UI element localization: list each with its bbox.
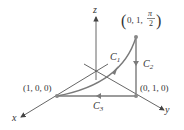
point-top-frac-den: 2: [149, 19, 153, 28]
point-top-close-paren: ): [156, 12, 161, 30]
point-left-label: (1, 0, 0): [23, 83, 52, 93]
z-axis-label: z: [92, 4, 97, 15]
point-right-label: (0, 1, 0): [140, 83, 169, 93]
c3-arrow-icon: [96, 93, 101, 99]
c2-label: C2: [143, 58, 154, 71]
point-top-coords: 0, 1,: [127, 15, 143, 25]
line-integral-diagram: z x y (1, 0, 0) (0, 1, 0) ( 0, 1, π 2 ) …: [0, 0, 184, 130]
c1-label: C1: [110, 51, 120, 64]
y-axis-label: y: [164, 104, 170, 115]
point-top-frac-num: π: [148, 9, 153, 18]
point-left: [55, 94, 59, 98]
c1-arrow-icon: [112, 66, 118, 75]
point-top: [134, 35, 138, 39]
point-right: [134, 94, 138, 98]
point-top-open-paren: (: [121, 12, 126, 30]
c2-arrow-icon: [133, 61, 139, 66]
c3-label: C3: [93, 100, 104, 113]
x-axis-label: x: [11, 112, 17, 123]
